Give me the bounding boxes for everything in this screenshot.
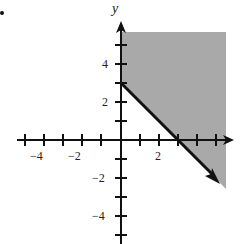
y-tick-label-neg2: −2 (92, 171, 105, 185)
x-tick-label-neg2: −2 (68, 149, 81, 163)
y-axis-label: y (110, 1, 119, 16)
graph: y −4 −2 2 4 2 −2 −4 (0, 0, 242, 244)
x-tick-label-2: 2 (155, 149, 161, 163)
shaded-region (121, 32, 226, 189)
y-tick-label-4: 4 (102, 57, 108, 71)
y-tick-label-neg4: −4 (92, 209, 105, 223)
bullet-mark (0, 11, 4, 15)
x-tick-label-neg4: −4 (30, 149, 43, 163)
y-tick-label-2: 2 (102, 95, 108, 109)
